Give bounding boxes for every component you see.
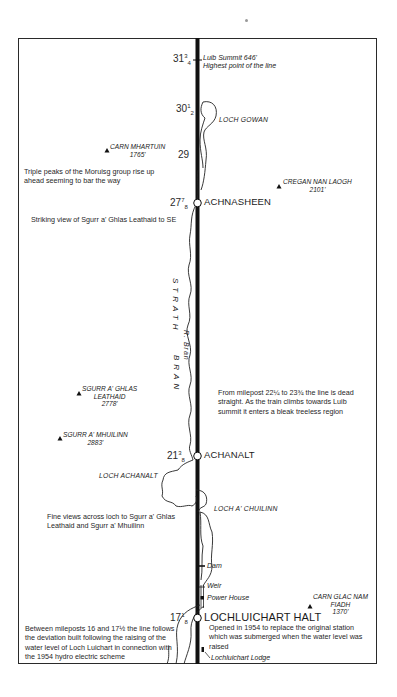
peak-label-carn-mhartuin: CARN MHARTUIN 1765' (110, 143, 165, 158)
summit-note: Highest point of the line (203, 62, 276, 70)
note-dead-straight: From milepost 22¼ to 23¾ the line is dea… (218, 388, 368, 416)
peak-icon-sgurr-a-ghlas-leathaid (77, 391, 82, 396)
station-marker-lochluichart (194, 614, 202, 622)
valley-label-strath: STRATH (171, 278, 180, 333)
milepost-fraction: 1 (181, 612, 184, 618)
milepost-fraction-den: 8 (184, 204, 187, 210)
loch-label-gowan: LOCH GOWAN (219, 116, 268, 124)
lodge-pointer (205, 652, 210, 658)
power-house-label: Power House (207, 594, 249, 602)
milepost-29: 29 (178, 149, 189, 161)
milepost-fraction-den: 2 (190, 110, 193, 116)
peak-icon-carn-mhartuin (105, 148, 110, 153)
lodge-marker (202, 647, 205, 652)
milepost-27-7-8: 2778 (170, 197, 188, 211)
lodge-label: Lochluichart Lodge (211, 654, 270, 662)
loch-achanalt-outline (162, 460, 207, 512)
summit-label: Luib Summit 646' Highest point of the li… (203, 54, 276, 70)
loch-label-achanalt: LOCH ACHANALT (99, 472, 158, 480)
loch-gowan-outline (200, 102, 216, 190)
valley-label-bran: BRAN (172, 355, 181, 393)
power-house-marker (201, 596, 205, 600)
milepost-fraction-den: 4 (187, 60, 190, 66)
milepost-fraction: 3 (178, 450, 181, 456)
river-label-bran: R. Bran (183, 330, 190, 361)
peak-label-sgurr-a-ghlas-leathaid: SGURR A' GHLAS LEATHAID 2778' (82, 385, 137, 408)
loch-label-chuilinn: LOCH A' CHUILINN (214, 505, 278, 513)
weir-label: Weir (207, 582, 221, 590)
scan-dot (245, 19, 248, 22)
dam-label: Dam (207, 562, 222, 570)
peak-icon-carn-glac-nam-fiadh (308, 604, 313, 609)
peak-icon-cregan-nan-laogh (277, 184, 282, 189)
peak-label-sgurr-a-mhuilinn: SGURR A' MHUILINN 2883' (63, 431, 128, 446)
milepost-fraction: 3 (184, 53, 187, 59)
note-fine-views: Fine views across loch to Sgurr a' Ghlas… (47, 512, 177, 531)
milepost-fraction-den: 8 (181, 457, 184, 463)
note-deviation: Between mileposts 16 and 17½ the line fo… (25, 624, 175, 661)
milepost-30-1-2: 3012 (176, 103, 194, 117)
station-label-achanalt: ACHANALT (204, 450, 255, 461)
peak-label-carn-glac-nam-fiadh: CARN GLAC NAM FIADH 1370' (313, 593, 368, 616)
note-triple-peaks: Triple peaks of the Moruisg group rise u… (24, 167, 174, 186)
milepost-fraction: 7 (181, 197, 184, 203)
note-halt-opened: Opened in 1954 to replace the original s… (209, 623, 369, 651)
station-marker-achnasheen (194, 199, 202, 207)
peak-icon-sgurr-a-mhuilinn (58, 436, 63, 441)
milepost-fraction-den: 8 (184, 619, 187, 625)
station-label-achnasheen: ACHNASHEEN (204, 197, 271, 208)
milepost-31-3-4: 3134 (173, 53, 191, 67)
summit-name: Luib Summit 646' (203, 54, 276, 62)
milepost-21-3-8: 2138 (167, 450, 185, 464)
peak-label-cregan-nan-laogh: CREGAN NAN LAOGH 2101' (283, 178, 352, 193)
loch-chuilinn-outline (200, 512, 213, 586)
note-striking-view: Striking view of Sgurr a' Ghlas Leathaid… (31, 215, 191, 224)
milepost-fraction: 1 (187, 103, 190, 109)
station-label-lochluichart-halt: LOCHLUICHART HALT (204, 611, 321, 624)
station-marker-achanalt (194, 452, 202, 460)
